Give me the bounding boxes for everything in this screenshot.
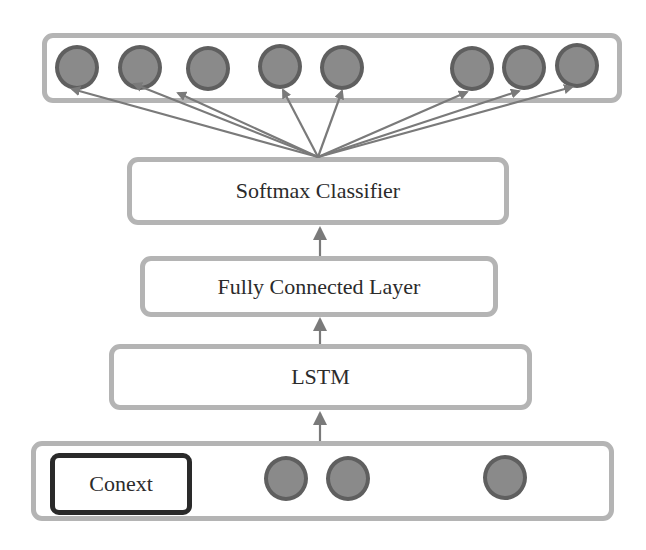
fully-connected-layer: Fully Connected Layer — [140, 256, 498, 317]
output-node-6 — [450, 46, 494, 91]
lstm-label: LSTM — [291, 364, 350, 390]
output-node-1 — [55, 45, 99, 90]
diagram-canvas: Softmax Classifier Fully Connected Layer… — [0, 0, 646, 550]
context-box: Conext — [50, 453, 192, 515]
input-node-3 — [483, 455, 527, 500]
output-node-3 — [186, 46, 230, 91]
context-label: Conext — [89, 471, 153, 497]
input-node-2 — [326, 456, 370, 501]
output-node-4 — [258, 44, 302, 89]
fully-connected-label: Fully Connected Layer — [218, 274, 421, 300]
lstm-layer: LSTM — [109, 344, 532, 410]
output-node-8 — [555, 43, 599, 88]
output-node-5 — [320, 45, 364, 90]
softmax-classifier-layer: Softmax Classifier — [127, 157, 509, 225]
output-node-2 — [118, 45, 162, 90]
output-node-7 — [502, 45, 546, 90]
input-node-1 — [264, 456, 308, 501]
softmax-classifier-label: Softmax Classifier — [236, 178, 400, 204]
